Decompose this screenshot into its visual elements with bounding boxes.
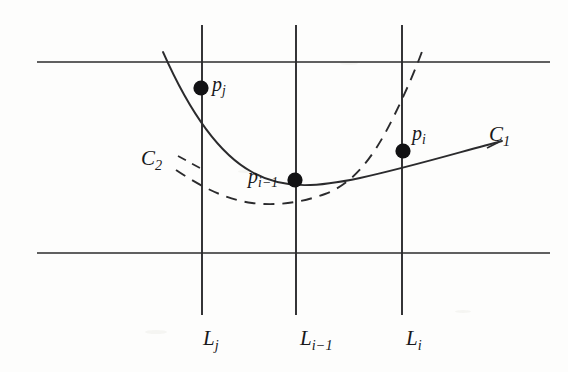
label-curve-c1-base: C — [489, 122, 503, 146]
label-curve-c1: C1 — [489, 124, 510, 145]
label-point-pi-minus-1-subscript: i−1 — [258, 175, 278, 190]
label-point-pi-minus-1: pi−1 — [248, 166, 278, 186]
label-point-pi-base: p — [412, 122, 422, 144]
label-point-pj-subscript: j — [222, 83, 226, 98]
label-curve-c2-base: C — [141, 146, 155, 170]
label-point-pj: pj — [212, 74, 226, 94]
point-pi-marker — [395, 143, 410, 158]
label-point-pi-subscript: i — [422, 132, 426, 147]
label-line-li-minus-1-subscript: i−1 — [312, 337, 333, 353]
curve-c1-solid — [163, 52, 502, 185]
label-point-pi-minus-1-base: p — [248, 165, 258, 187]
label-line-li: Li — [406, 328, 422, 349]
label-point-pi: pi — [412, 123, 426, 143]
label-line-li-subscript: i — [418, 337, 422, 353]
label-curve-c2-subscript: 2 — [155, 157, 162, 173]
label-line-lj-subscript: j — [215, 337, 219, 353]
label-point-pj-base: p — [212, 73, 222, 95]
label-curve-c2: C2 — [141, 148, 162, 169]
label-curve-c1-subscript: 1 — [503, 133, 510, 149]
point-pj-marker — [193, 80, 208, 95]
label-line-li-minus-1-base: L — [300, 326, 312, 350]
diagram-canvas — [0, 0, 568, 372]
label-line-li-minus-1: Li−1 — [300, 328, 333, 349]
label-line-lj: Lj — [203, 328, 219, 349]
label-line-lj-base: L — [203, 326, 215, 350]
label-line-li-base: L — [406, 326, 418, 350]
c2-leader-dash — [178, 156, 200, 168]
curve-intersection-figure: C1 C2 pj pi pi−1 Lj Li−1 Li — [0, 0, 568, 372]
point-pi-minus-1-marker — [287, 172, 302, 187]
